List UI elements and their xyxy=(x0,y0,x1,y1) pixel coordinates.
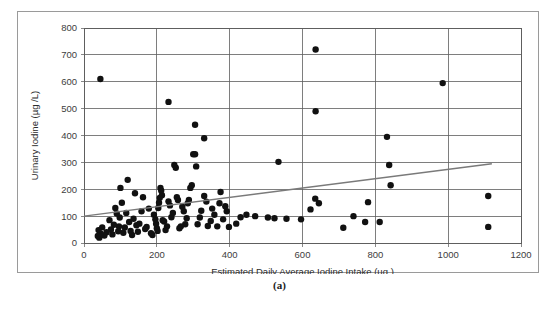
data-point xyxy=(233,220,239,226)
data-point xyxy=(220,216,226,222)
figure-container: 0100200300400500600700800 02004006008001… xyxy=(0,0,559,316)
data-point xyxy=(387,182,393,188)
data-point xyxy=(159,217,165,223)
data-point xyxy=(201,135,207,141)
data-point xyxy=(386,162,392,168)
data-point xyxy=(271,215,277,221)
data-point xyxy=(97,76,103,82)
data-point xyxy=(214,223,220,229)
data-point xyxy=(193,163,199,169)
x-tick-label: 1200 xyxy=(510,249,531,260)
x-tick-label: 200 xyxy=(149,249,165,260)
y-axis-title: Urinary Iodine (µg /L) xyxy=(29,91,40,180)
data-point xyxy=(122,224,128,230)
data-point xyxy=(119,199,125,205)
data-point xyxy=(133,222,139,228)
data-point xyxy=(485,193,491,199)
data-point xyxy=(307,206,313,212)
y-tick-label: 300 xyxy=(61,157,77,168)
data-point xyxy=(377,219,383,225)
plot-svg: 0100200300400500600700800 02004006008001… xyxy=(18,12,540,274)
data-point xyxy=(132,190,138,196)
data-point xyxy=(183,215,189,221)
data-point xyxy=(135,229,141,235)
data-point xyxy=(171,162,177,168)
data-point xyxy=(190,151,196,157)
data-point xyxy=(165,198,171,204)
data-point xyxy=(440,80,446,86)
y-tick-label: 0 xyxy=(72,237,77,248)
data-point xyxy=(316,200,322,206)
data-point xyxy=(126,219,132,225)
data-point xyxy=(165,99,171,105)
data-point xyxy=(142,226,148,232)
trend-line xyxy=(84,164,492,216)
data-point xyxy=(112,205,118,211)
data-point xyxy=(275,159,281,165)
data-point xyxy=(187,185,193,191)
data-point xyxy=(174,194,180,200)
data-point xyxy=(485,224,491,230)
data-point xyxy=(194,221,200,227)
data-point xyxy=(127,228,133,234)
y-tick-label: 500 xyxy=(61,103,77,114)
data-point xyxy=(265,214,271,220)
data-point xyxy=(340,224,346,230)
data-point xyxy=(106,217,112,223)
data-point xyxy=(140,194,146,200)
data-point xyxy=(192,122,198,128)
data-point xyxy=(117,185,123,191)
y-tick-label: 200 xyxy=(61,184,77,195)
y-tick-label: 600 xyxy=(61,76,77,87)
y-axis-ticks: 0100200300400500600700800 xyxy=(61,22,84,248)
data-point xyxy=(157,185,163,191)
x-axis-title: Estimated Daily Average Iodine Intake (µ… xyxy=(211,266,394,274)
data-point xyxy=(350,213,356,219)
data-point xyxy=(95,233,101,239)
data-point xyxy=(198,208,204,214)
data-point xyxy=(312,46,318,52)
data-point xyxy=(156,199,162,205)
data-point xyxy=(217,189,223,195)
x-tick-label: 800 xyxy=(367,249,383,260)
x-tick-label: 600 xyxy=(295,249,311,260)
data-points-layer xyxy=(95,46,492,241)
x-tick-label: 400 xyxy=(222,249,238,260)
data-point xyxy=(298,216,304,222)
y-tick-label: 400 xyxy=(61,130,77,141)
data-point xyxy=(95,227,101,233)
x-axis-ticks: 020040060080010001200 xyxy=(81,243,531,260)
data-point xyxy=(115,228,121,234)
data-point xyxy=(362,219,368,225)
data-point xyxy=(201,193,207,199)
data-point xyxy=(226,224,232,230)
y-tick-label: 700 xyxy=(61,49,77,60)
chart-border-box: 0100200300400500600700800 02004006008001… xyxy=(17,11,539,273)
data-point xyxy=(205,223,211,229)
data-point xyxy=(125,177,131,183)
data-point xyxy=(203,198,209,204)
data-point xyxy=(283,216,289,222)
x-tick-label: 0 xyxy=(81,249,86,260)
x-tick-label: 1000 xyxy=(438,249,459,260)
figure-caption: (a) xyxy=(0,279,559,291)
data-point xyxy=(162,227,168,233)
data-point xyxy=(176,225,182,231)
data-point xyxy=(222,203,228,209)
data-point xyxy=(168,214,174,220)
data-point xyxy=(243,212,249,218)
data-point xyxy=(312,108,318,114)
data-point xyxy=(384,134,390,140)
data-point xyxy=(197,214,203,220)
scatter-chart: 0100200300400500600700800 02004006008001… xyxy=(18,12,540,274)
data-point xyxy=(365,199,371,205)
data-point xyxy=(252,213,258,219)
data-point xyxy=(211,212,217,218)
data-point xyxy=(237,214,243,220)
y-tick-label: 100 xyxy=(61,211,77,222)
data-point xyxy=(216,200,222,206)
data-point xyxy=(148,230,154,236)
data-point xyxy=(209,205,215,211)
y-tick-label: 800 xyxy=(61,22,77,33)
data-point xyxy=(151,212,157,218)
